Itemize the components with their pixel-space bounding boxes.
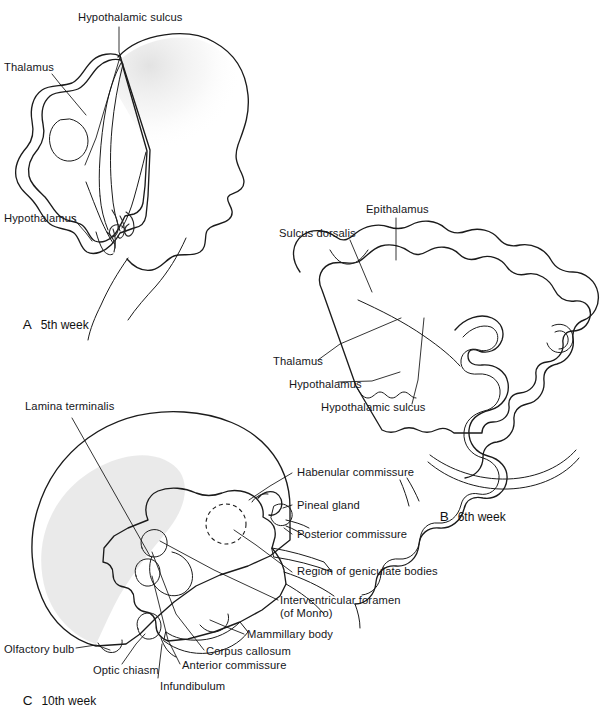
panel-b-hypothalamic-sulcus-line [358, 300, 460, 366]
panel-key-a: A5th week [16, 303, 89, 332]
panel-c-mammillary-body [200, 614, 229, 632]
panel-a-inner-contour-2 [100, 196, 108, 230]
label-sulcus-dorsalis-b: Sulcus dorsalis [279, 227, 356, 240]
leader-sulcus-dorsalis-b [350, 240, 372, 292]
panel-b-leaders [318, 218, 424, 404]
label-epithalamus-b: Epithalamus [366, 203, 429, 216]
label-thalamus-a: Thalamus [4, 61, 54, 74]
label-posterior-commissure-c: Posterior commissure [297, 528, 407, 541]
panel-c-cortex-shading [41, 455, 185, 644]
panel-c-pineal-region [258, 492, 282, 516]
label-hypothalamus-b: Hypothalamus [289, 378, 362, 391]
label-corpus-callosum-c: Corpus callosum [206, 645, 291, 658]
panel-b-tail-feather-3 [355, 604, 360, 628]
leader-geniculate-bodies-c [234, 530, 292, 572]
panel-c-optic-chiasm [137, 613, 161, 639]
panel-week-c: 10th week [41, 694, 96, 705]
panel-a-body-curve [128, 238, 186, 320]
leader-thalamus-a [52, 74, 86, 115]
panel-b-tail-feather-1 [400, 480, 409, 506]
panel-letter-a: A [23, 317, 32, 332]
panel-letter-b: B [440, 509, 449, 524]
panel-c-thalamus-ridge [150, 552, 193, 596]
panel-b-recess-hook-inner [555, 331, 568, 349]
leader-habenular-commissure-c [249, 473, 292, 500]
panel-b-outer-mantle [294, 221, 599, 478]
panel-week-a: 5th week [41, 318, 89, 332]
panel-a-inner-contour-1 [99, 63, 121, 196]
panel-a-head-shading [118, 38, 242, 150]
label-hypothalamic-sulcus-b: Hypothalamic sulcus [321, 401, 426, 414]
label-infundibulum-c: Infundibulum [160, 680, 225, 693]
panel-a-neck-curve [88, 258, 128, 340]
panel-letter-c: C [23, 693, 33, 705]
panel-a-thalamus-swelling [49, 119, 88, 161]
label-region-of-geniculate-bodies-c: Region of geniculate bodies [297, 565, 438, 578]
leader-posterior-commissure-c [284, 528, 292, 534]
panel-c-habenular-commissure-mark [252, 494, 268, 502]
panel-b-tube-outer [355, 316, 508, 604]
label-hypothalamus-a: Hypothalamus [4, 212, 77, 225]
panel-a-lateral-fold [122, 152, 146, 228]
label-anterior-commissure-c: Anterior commissure [182, 659, 286, 672]
leader-interventricular-foramen-c [160, 541, 278, 600]
label-optic-chiasm-c: Optic chiasm [93, 664, 159, 677]
panel-key-c: C10th week [16, 679, 96, 705]
panel-c-artwork [32, 412, 334, 657]
panel-key-b: B6th week [433, 495, 506, 524]
panel-b-tail-feather-2 [407, 478, 419, 501]
label-mammillary-body-c: Mammillary body [247, 628, 333, 641]
label-thalamus-b: Thalamus [273, 355, 323, 368]
label-interventricular-foramen-sub-c: (of Monro) [280, 607, 333, 620]
leader-hypothalamic-sulcus-a2 [85, 57, 120, 165]
label-hypothalamic-sulcus-a: Hypothalamic sulcus [78, 11, 183, 24]
panel-b-recess-hook [547, 324, 573, 352]
panel-b-ventral-outline-2 [428, 458, 579, 489]
panel-c-geniculate-bodies-circle [206, 504, 246, 544]
label-interventricular-foramen-c: Interventricular foramen [280, 594, 401, 607]
label-lamina-terminalis-c: Lamina terminalis [25, 400, 114, 413]
leader-hypothalamic-sulcus-b [412, 318, 424, 404]
label-pineal-gland-c: Pineal gland [297, 499, 360, 512]
panel-b-tube-inner [362, 326, 500, 595]
panel-a-artwork [16, 34, 249, 340]
panel-b-hypothalamic-ridges [356, 386, 416, 398]
panel-week-b: 6th week [458, 510, 506, 524]
label-olfactory-bulb-c: Olfactory bulb [4, 643, 74, 656]
leader-thalamus-b [318, 318, 401, 360]
label-habenular-commissure-c: Habenular commissure [297, 466, 414, 479]
